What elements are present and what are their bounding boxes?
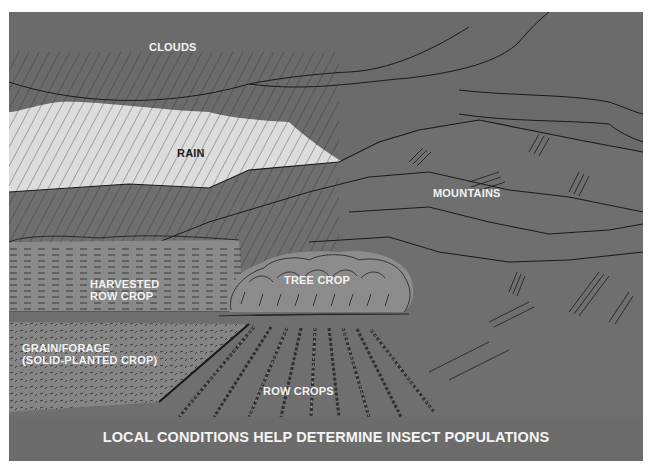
figure-caption: LOCAL CONDITIONS HELP DETERMINE INSECT P… xyxy=(9,429,643,445)
label-grain-forage-line2: (SOLID-PLANTED CROP) xyxy=(22,354,157,366)
landscape-illustration: CLOUDS RAIN MOUNTAINS HARVESTED ROW CROP… xyxy=(9,12,643,461)
label-clouds: CLOUDS xyxy=(149,41,197,53)
label-rain: RAIN xyxy=(177,147,205,159)
label-mountains: MOUNTAINS xyxy=(433,187,501,199)
label-tree-crop: TREE CROP xyxy=(284,274,350,286)
label-harvested-row-crop-line1: HARVESTED xyxy=(90,278,159,290)
label-row-crops: ROW CROPS xyxy=(263,385,334,397)
label-harvested-row-crop-line2: ROW CROP xyxy=(90,290,153,302)
label-grain-forage-line1: GRAIN/FORAGE xyxy=(22,342,110,354)
